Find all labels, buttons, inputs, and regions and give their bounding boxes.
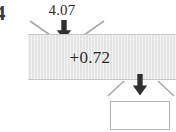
output-box bbox=[110, 101, 170, 130]
diagram-canvas: 4 4.07 +0.72 bbox=[0, 0, 176, 132]
input-value-label: 4.07 bbox=[38, 2, 86, 19]
process-block: +0.72 bbox=[28, 34, 176, 80]
output-arrow-down-icon bbox=[130, 74, 150, 96]
edge-marker-label: 4 bbox=[0, 1, 9, 25]
